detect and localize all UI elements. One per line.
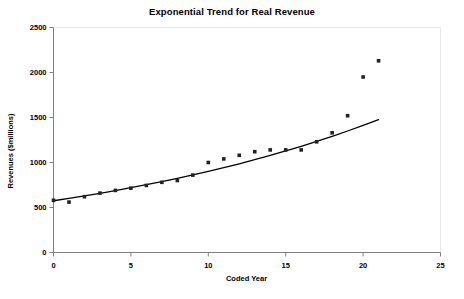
y-axis-tick-label: 2000 [8, 68, 47, 77]
data-point [83, 195, 87, 199]
data-point [191, 173, 195, 177]
x-axis-tick-label: 0 [34, 261, 74, 270]
y-axis-tick-label: 2500 [8, 23, 47, 32]
y-axis-tick-label: 1500 [8, 113, 47, 122]
data-point [237, 154, 241, 158]
y-axis-tick-label: 0 [8, 248, 47, 257]
y-axis-tick-label: 1000 [8, 158, 47, 167]
data-point [330, 131, 334, 135]
data-point [160, 181, 164, 185]
data-point [114, 189, 118, 193]
data-point [176, 179, 180, 183]
plot-area [0, 0, 464, 299]
chart-container: Exponential Trend for Real Revenue Reven… [0, 0, 464, 299]
data-point [222, 157, 226, 161]
trend-line [54, 120, 379, 201]
data-point [268, 148, 272, 152]
data-point [315, 140, 319, 144]
plot-frame [54, 28, 441, 253]
x-axis-tick-label: 15 [266, 261, 306, 270]
data-point [284, 148, 288, 152]
data-point [377, 59, 381, 63]
data-point [207, 161, 211, 165]
data-point [346, 114, 350, 118]
x-axis-tick-label: 5 [111, 261, 151, 270]
x-axis-tick-label: 25 [421, 261, 461, 270]
data-point [52, 199, 56, 203]
x-axis-tick-label: 20 [343, 261, 383, 270]
data-point [129, 186, 133, 190]
data-point [67, 200, 71, 204]
data-point [299, 148, 303, 152]
y-axis-tick-label: 500 [8, 203, 47, 212]
data-point [361, 75, 365, 79]
data-point [253, 150, 257, 154]
x-axis-tick-label: 10 [188, 261, 228, 270]
data-point [145, 184, 149, 188]
x-axis-title: Coded Year [53, 274, 440, 283]
data-point-group [52, 59, 381, 204]
data-point [98, 191, 102, 195]
